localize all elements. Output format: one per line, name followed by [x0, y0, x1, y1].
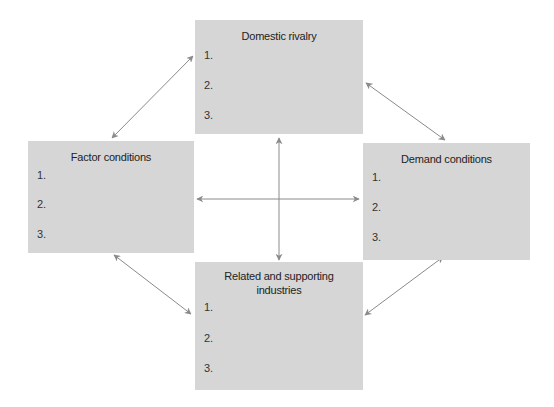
box-title: Demand conditions — [363, 153, 530, 166]
list-item: 2. — [204, 79, 213, 91]
box-title: Related and supporting — [195, 270, 363, 283]
list-item: 3. — [204, 109, 213, 121]
box-title-line2: industries — [195, 284, 363, 297]
arrow-top-right — [366, 83, 445, 140]
box-title: Domestic rivalry — [195, 30, 363, 43]
arrow-bottom-left — [114, 255, 191, 314]
list-item: 3. — [372, 231, 381, 243]
arrow-bottom-right — [365, 257, 443, 315]
list-item: 1. — [37, 169, 46, 181]
list-item: 2. — [204, 332, 213, 344]
list-item: 1. — [204, 301, 213, 313]
list-item: 3. — [37, 228, 46, 240]
list-item: 2. — [372, 201, 381, 213]
list-item: 1. — [372, 171, 381, 183]
list-item: 2. — [37, 198, 46, 210]
box-title: Factor conditions — [28, 151, 194, 164]
box-domestic-rivalry: Domestic rivalry 1. 2. 3. — [195, 20, 363, 134]
box-related-supporting-industries: Related and supporting industries 1. 2. … — [195, 262, 363, 390]
list-item: 1. — [204, 49, 213, 61]
box-demand-conditions: Demand conditions 1. 2. 3. — [363, 143, 530, 260]
list-item: 3. — [204, 362, 213, 374]
arrow-top-left — [112, 56, 193, 138]
box-factor-conditions: Factor conditions 1. 2. 3. — [28, 141, 194, 253]
